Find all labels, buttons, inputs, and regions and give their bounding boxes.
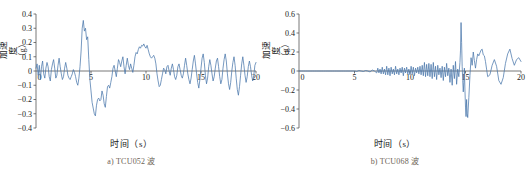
data-trace (299, 23, 521, 118)
y-tick-label: 0.4 (22, 10, 32, 19)
plot-svg-right: −0.6−0.4−0.200.20.40.605101520 (263, 0, 527, 142)
y-tick-label: −0.6 (280, 124, 295, 133)
figure-container: 加速度（g） −0.4−0.3−0.2−0.100.10.20.30.40510… (0, 0, 527, 175)
panel-caption-right: b) TCU068 波 (263, 155, 527, 166)
plot-area-right: −0.6−0.4−0.200.20.40.605101520 (263, 0, 527, 142)
x-tick-label: 0 (301, 73, 305, 82)
y-tick-label: 0.2 (285, 48, 295, 57)
x-tick-label: 10 (142, 73, 150, 82)
y-tick-label: −0.2 (17, 95, 32, 104)
x-axis-label-right: 时间（s） (263, 137, 527, 150)
x-tick-label: 15 (197, 73, 205, 82)
data-trace (36, 20, 256, 115)
y-tick-label: −0.1 (17, 81, 32, 90)
y-tick-label: 0.3 (22, 24, 32, 33)
chart-panel-tcu068: 加速度（g） −0.6−0.4−0.200.20.40.605101520 时间… (263, 0, 527, 175)
y-tick-label: 0.1 (22, 53, 32, 62)
x-tick-label: 5 (353, 73, 357, 82)
y-tick-label: −0.3 (17, 110, 32, 119)
plot-svg-left: −0.4−0.3−0.2−0.100.10.20.30.405101520 (0, 0, 263, 142)
y-tick-label: 0.2 (22, 38, 32, 47)
y-tick-label: −0.2 (280, 86, 295, 95)
y-tick-label: 0.4 (285, 29, 295, 38)
x-tick-label: 20 (517, 73, 525, 82)
plot-area-left: −0.4−0.3−0.2−0.100.10.20.30.405101520 (0, 0, 263, 142)
chart-panel-tcu052: 加速度（g） −0.4−0.3−0.2−0.100.10.20.30.40510… (0, 0, 263, 175)
y-tick-label: 0 (28, 67, 32, 76)
x-axis-label-left: 时间（s） (0, 137, 263, 150)
y-tick-label: 0.6 (285, 10, 295, 19)
y-tick-label: −0.4 (17, 124, 32, 133)
panel-caption-left: a) TCU052 波 (0, 155, 263, 166)
y-tick-label: 0 (291, 67, 295, 76)
y-tick-label: −0.4 (280, 105, 295, 114)
